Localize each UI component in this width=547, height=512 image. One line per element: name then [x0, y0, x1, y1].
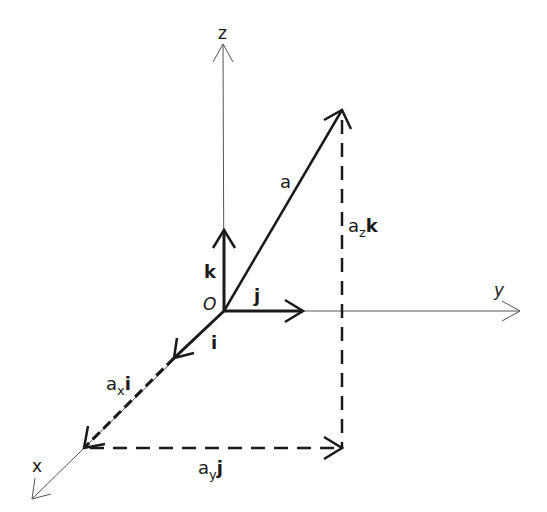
- origin-label: O: [203, 294, 216, 314]
- unit-vector-j-arrow: [224, 300, 303, 322]
- unit-vector-j-label: j: [253, 285, 260, 306]
- z-axis-label: z: [218, 23, 227, 43]
- component-ax-label: axi: [106, 373, 131, 398]
- x-axis-label: x: [32, 456, 42, 476]
- vector-diagram: z y x O k j i a azk axi ayj: [0, 0, 547, 512]
- component-az-label: azk: [348, 215, 379, 240]
- unit-vector-k-label: k: [204, 261, 217, 282]
- component-ay-arrow: [90, 437, 342, 459]
- y-axis-label: y: [493, 280, 505, 300]
- component-ax-arrow: [84, 358, 174, 448]
- unit-vector-i-label: i: [211, 332, 217, 353]
- vector-a-arrow: [224, 110, 351, 311]
- vector-a-label: a: [280, 171, 291, 192]
- component-ay-label: ayj: [198, 457, 223, 482]
